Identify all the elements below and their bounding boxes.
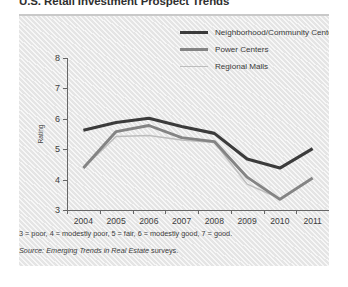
panel-top-divider (19, 14, 329, 16)
y-axis-tick-label: 4 (55, 175, 60, 185)
y-axis-tick-label: 3 (55, 205, 60, 215)
x-axis-tick-label: 2007 (172, 216, 191, 226)
chart-figure: U.S. Retail Investment Prospect Trends N… (0, 0, 348, 287)
legend-item-label: Power Centers (215, 45, 269, 54)
series-lines (67, 58, 329, 210)
y-axis-tick-label: 6 (55, 114, 60, 124)
rating-scale-note: 3 = poor, 4 = modestly poor, 5 = fair, 6… (19, 228, 339, 239)
x-axis-tick (264, 210, 265, 214)
y-axis-title: Rating (37, 124, 44, 143)
source-suffix: surveys. (151, 246, 178, 255)
x-axis-tick-label: 2010 (270, 216, 289, 226)
legend-item-neighborhood-community-centers: Neighborhood/Community Centers (180, 26, 329, 39)
y-axis-tick-label: 5 (55, 144, 60, 154)
x-axis-tick-label: 2008 (205, 216, 224, 226)
page-title: U.S. Retail Investment Prospect Trends (19, 0, 339, 7)
legend-item-power-centers: Power Centers (180, 43, 329, 56)
x-axis-tick-label: 2009 (238, 216, 257, 226)
x-axis-tick (100, 210, 101, 214)
series-line (83, 118, 312, 168)
x-axis-tick-label: 2004 (74, 216, 93, 226)
x-axis-tick (133, 210, 134, 214)
x-axis-tick (67, 210, 68, 214)
x-axis-tick-label: 2011 (303, 216, 321, 226)
line-swatch-icon (180, 48, 208, 51)
y-axis-tick-label: 7 (55, 83, 60, 93)
plot-area: Rating 345678 20042005200620072008200920… (67, 58, 329, 210)
source-note: Source: Emerging Trends in Real Estate s… (19, 245, 339, 256)
x-axis-tick (165, 210, 166, 214)
y-axis-tick-label: 8 (55, 53, 60, 63)
x-axis-tick (231, 210, 232, 214)
line-swatch-icon (180, 31, 208, 34)
source-label: Source: (19, 246, 44, 255)
chart-notes: 3 = poor, 4 = modestly poor, 5 = fair, 6… (19, 228, 339, 262)
x-axis-tick-label: 2006 (139, 216, 158, 226)
source-publication: Emerging Trends in Real Estate (46, 246, 149, 255)
x-axis-tick (198, 210, 199, 214)
x-axis-tick (296, 210, 297, 214)
x-axis-tick-label: 2005 (107, 216, 126, 226)
legend-item-label: Neighborhood/Community Centers (215, 28, 329, 37)
